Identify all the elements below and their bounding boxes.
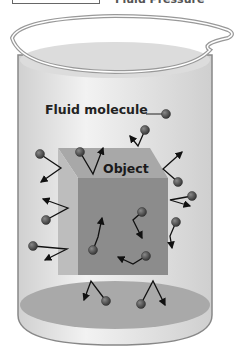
molecule bbox=[76, 148, 85, 157]
fluid-molecule-label: Fluid molecule bbox=[45, 102, 148, 117]
molecule bbox=[29, 242, 38, 251]
object-label: Object bbox=[103, 161, 149, 176]
molecule bbox=[188, 192, 197, 201]
molecule bbox=[102, 297, 111, 306]
beaker-diagram bbox=[0, 0, 238, 353]
beaker-floor bbox=[20, 281, 210, 329]
molecule bbox=[172, 218, 181, 227]
molecule bbox=[174, 178, 183, 187]
molecule bbox=[36, 150, 45, 159]
molecule bbox=[138, 208, 147, 217]
molecule bbox=[42, 216, 51, 225]
molecule bbox=[137, 300, 146, 309]
object-front bbox=[78, 178, 168, 275]
molecule bbox=[142, 252, 151, 261]
molecule bbox=[89, 246, 98, 255]
molecule bbox=[162, 110, 171, 119]
molecule bbox=[141, 126, 150, 135]
